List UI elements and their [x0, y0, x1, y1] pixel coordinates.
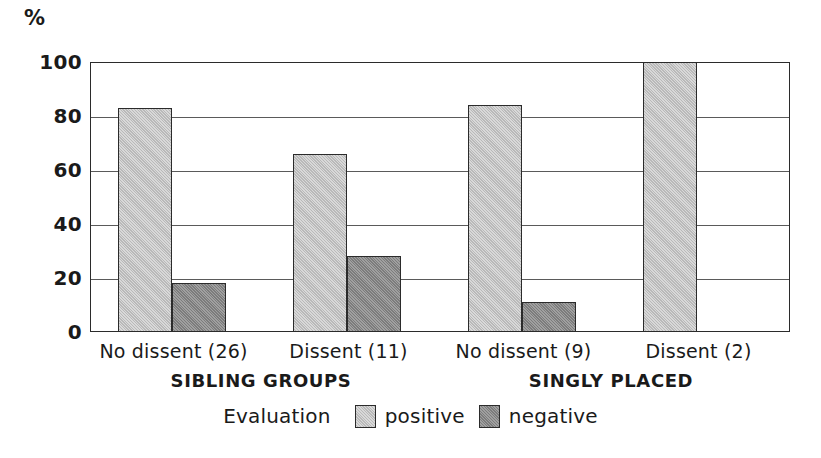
- y-axis-tick-labels: 020406080100: [0, 62, 82, 332]
- y-axis-unit-label: %: [24, 6, 46, 30]
- gridline-60: [91, 171, 789, 172]
- group-headers: SIBLING GROUPSSINGLY PLACED: [90, 370, 790, 396]
- category-label-1: Dissent (11): [289, 340, 407, 362]
- legend-entry-positive[interactable]: positive: [355, 404, 465, 428]
- y-tick-100: 100: [8, 50, 82, 74]
- y-tick-20: 20: [8, 266, 82, 290]
- gridline-80: [91, 117, 789, 118]
- legend-entry-negative[interactable]: negative: [479, 404, 598, 428]
- y-tick-40: 40: [8, 212, 82, 236]
- group-header-1: SINGLY PLACED: [529, 370, 693, 391]
- legend-title: Evaluation: [223, 404, 331, 428]
- plot-area: [90, 62, 790, 332]
- legend-label-negative: negative: [509, 404, 598, 428]
- x-axis-category-labels: No dissent (26)Dissent (11)No dissent (9…: [90, 340, 790, 370]
- legend-swatch-positive: [355, 405, 376, 428]
- bar-chart: % 020406080100 No dissent (26)Dissent (1…: [0, 0, 821, 458]
- gridline-40: [91, 225, 789, 226]
- legend-label-positive: positive: [385, 404, 465, 428]
- category-label-2: No dissent (9): [456, 340, 592, 362]
- y-tick-0: 0: [8, 320, 82, 344]
- gridline-20: [91, 279, 789, 280]
- y-tick-80: 80: [8, 104, 82, 128]
- category-label-3: Dissent (2): [645, 340, 751, 362]
- group-header-0: SIBLING GROUPS: [171, 370, 352, 391]
- chart-legend: Evaluation positivenegative: [0, 404, 821, 428]
- legend-swatch-negative: [479, 405, 500, 428]
- y-tick-60: 60: [8, 158, 82, 182]
- category-label-0: No dissent (26): [99, 340, 247, 362]
